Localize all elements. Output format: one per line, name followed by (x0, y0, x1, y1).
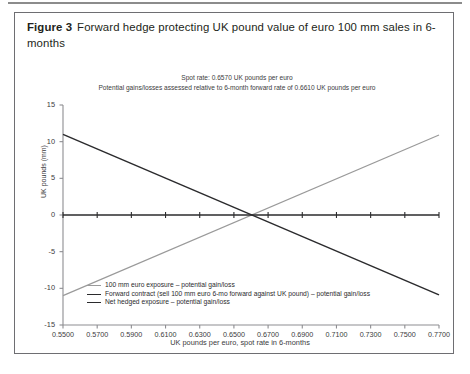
legend-label: Forward contract (sell 100 mm euro 6-mo … (105, 290, 370, 299)
legend-item-forward: Forward contract (sell 100 mm euro 6-mo … (87, 290, 370, 299)
legend-label: Net hedged exposure – potential gain/los… (105, 298, 230, 307)
x-axis-label: UK pounds per euro, spot rate in 6-month… (55, 338, 425, 347)
figure-box: Figure 3Forward hedge protecting UK poun… (14, 12, 454, 354)
chart-legend: 100 mm euro exposure – potential gain/lo… (87, 281, 370, 307)
y-tick-label: -5 (29, 247, 55, 256)
y-tick-label: 5 (29, 173, 55, 182)
legend-swatch-icon (87, 285, 101, 286)
legend-item-net: Net hedged exposure – potential gain/los… (87, 298, 370, 307)
legend-label: 100 mm euro exposure – potential gain/lo… (105, 281, 235, 290)
legend-swatch-icon (87, 294, 101, 295)
x-tick-label: 0.7700 (419, 330, 459, 339)
y-tick-label: -10 (29, 283, 55, 292)
legend-swatch-icon (87, 302, 101, 303)
y-tick-label: 10 (29, 137, 55, 146)
legend-item-exposure: 100 mm euro exposure – potential gain/lo… (87, 281, 370, 290)
y-tick-label: 0 (29, 210, 55, 219)
page-top-rule (8, 2, 462, 4)
figure-page: Figure 3Forward hedge protecting UK poun… (0, 0, 470, 374)
y-tick-label: -15 (29, 320, 55, 329)
y-tick-label: 15 (29, 100, 55, 109)
